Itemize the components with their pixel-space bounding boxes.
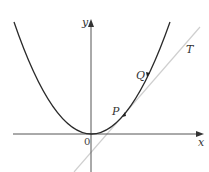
point-p-label: P (111, 105, 120, 118)
diagram-canvas: y x 0 P Q T (0, 0, 209, 172)
x-axis-label: x (198, 136, 205, 149)
origin-label: 0 (84, 136, 90, 147)
tangent-line-t (74, 27, 200, 172)
tangent-label: T (186, 43, 195, 56)
point-q-label: Q (136, 69, 145, 82)
y-axis-label: y (81, 16, 89, 29)
y-axis-arrow-icon (88, 19, 94, 27)
parabola-curve (14, 22, 170, 134)
y-axis (88, 19, 94, 172)
